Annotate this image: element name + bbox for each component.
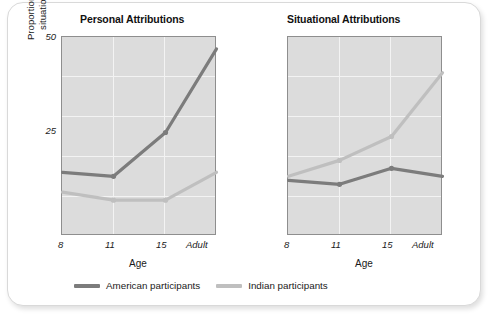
x-tick-right-15: 15 xyxy=(382,239,393,250)
figure-card: Proportion of personal and situational a… xyxy=(7,2,481,306)
legend-label-indian: Indian participants xyxy=(248,280,328,291)
y-tick-label-50: 50 xyxy=(34,31,56,42)
x-tick-left-15: 15 xyxy=(156,239,167,250)
legend-swatch-american-icon xyxy=(74,284,100,288)
legend-item-indian: Indian participants xyxy=(216,280,328,291)
data-point-marker xyxy=(111,198,116,203)
x-tick-right-8: 8 xyxy=(284,239,289,250)
x-axis-label-situational: Age xyxy=(334,258,394,269)
series-lines-personal xyxy=(62,37,217,236)
x-tick-left-8: 8 xyxy=(58,239,63,250)
panel-title-situational: Situational Attributions xyxy=(287,13,400,25)
x-tick-left-11: 11 xyxy=(105,239,115,250)
data-point-marker xyxy=(337,158,342,163)
legend-label-american: American participants xyxy=(106,280,200,291)
data-point-marker xyxy=(163,198,168,203)
x-tick-left-adult: Adult xyxy=(186,239,208,250)
line-american xyxy=(63,49,217,176)
x-axis-label-personal: Age xyxy=(108,258,168,269)
data-point-marker xyxy=(389,134,394,139)
legend: American participants Indian participant… xyxy=(74,280,328,291)
legend-swatch-indian-icon xyxy=(216,284,242,288)
data-point-marker xyxy=(389,166,394,171)
data-point-marker xyxy=(337,182,342,187)
plot-area-personal xyxy=(61,36,216,235)
legend-item-american: American participants xyxy=(74,280,200,291)
y-tick-label-25: 25 xyxy=(34,125,56,136)
plot-area-situational xyxy=(287,36,442,235)
line-indian xyxy=(63,172,217,200)
line-indian xyxy=(289,73,443,177)
data-point-marker xyxy=(163,130,168,135)
x-tick-right-11: 11 xyxy=(331,239,341,250)
series-lines-situational xyxy=(288,37,443,236)
data-point-marker xyxy=(111,174,116,179)
panel-title-personal: Personal Attributions xyxy=(80,13,184,25)
x-tick-right-adult: Adult xyxy=(412,239,434,250)
